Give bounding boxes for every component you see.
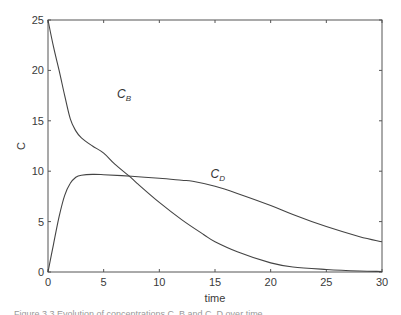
series-line-c-d: [48, 174, 382, 272]
y-tick-label: 5: [38, 216, 44, 228]
series-label-c-b: CB: [117, 87, 132, 103]
plot-frame: [48, 20, 382, 272]
x-axis-label: time: [205, 292, 226, 304]
y-tick-label: 20: [32, 64, 44, 76]
series-labels: CBCD: [117, 87, 225, 184]
x-tick-label: 0: [45, 276, 51, 288]
y-tick-label: 10: [32, 165, 44, 177]
x-tick-label: 25: [320, 276, 332, 288]
y-tick-label: 0: [38, 266, 44, 278]
y-tick-label: 25: [32, 14, 44, 26]
y-tick-label: 15: [32, 115, 44, 127]
series-lines: [48, 20, 382, 272]
y-axis-label: C: [15, 142, 27, 150]
series-label-c-d: CD: [211, 167, 226, 183]
axis-ticks: 0510152025300510152025: [32, 14, 388, 288]
x-tick-label: 20: [265, 276, 277, 288]
figure-caption: Figure 3.3 Evolution of concentrations C…: [14, 309, 394, 315]
plot-area-border: [48, 20, 382, 272]
x-tick-label: 15: [209, 276, 221, 288]
x-tick-label: 30: [376, 276, 388, 288]
x-tick-label: 10: [153, 276, 165, 288]
x-tick-label: 5: [101, 276, 107, 288]
series-line-c-b: [48, 20, 382, 272]
